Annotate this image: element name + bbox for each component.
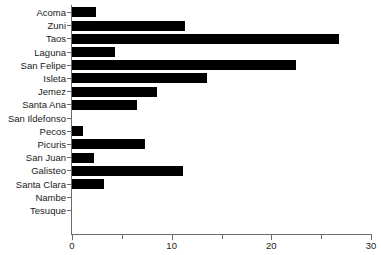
x-axis-tick-label: 10 [166, 240, 177, 251]
y-axis-tick [67, 131, 71, 132]
category-label: San Ildefonso [8, 112, 66, 125]
y-axis-tick [67, 118, 71, 119]
bar-row: San Juan [0, 151, 381, 164]
bar-row: San Felipe [0, 59, 381, 72]
bar-chart: AcomaZuniTaosLagunaSan FelipeIsletaJemez… [0, 0, 381, 255]
bar-row: Santa Ana [0, 98, 381, 111]
category-label: San Juan [26, 151, 66, 164]
bar-row: Nambe [0, 191, 381, 204]
y-axis-tick [67, 144, 71, 145]
bar [72, 139, 145, 149]
category-label: Tesuque [30, 204, 66, 217]
y-axis-tick [67, 25, 71, 26]
category-label: Pecos [40, 125, 66, 138]
category-label: San Felipe [21, 59, 66, 72]
bar-row: Taos [0, 32, 381, 45]
y-axis-tick [67, 52, 71, 53]
category-label: Santa Ana [22, 98, 66, 111]
category-label: Taos [46, 32, 66, 45]
y-axis-tick [67, 157, 71, 158]
y-axis-tick [67, 65, 71, 66]
y-axis-tick [67, 12, 71, 13]
x-axis-tick-label: 0 [69, 240, 74, 251]
y-axis-tick [67, 197, 71, 198]
x-axis-tick-label: 20 [266, 240, 277, 251]
category-label: Jemez [38, 85, 66, 98]
y-axis-tick [67, 91, 71, 92]
bar [72, 166, 183, 176]
bar [72, 47, 115, 57]
category-label: Isleta [43, 72, 66, 85]
x-axis-tick [222, 234, 223, 239]
category-label: Picuris [37, 138, 66, 151]
y-axis-tick [67, 104, 71, 105]
category-label: Santa Clara [16, 178, 66, 191]
y-axis-tick [67, 210, 71, 211]
bar-row: Santa Clara [0, 178, 381, 191]
bar [72, 7, 96, 17]
bar-row: Picuris [0, 138, 381, 151]
bar-row: Pecos [0, 125, 381, 138]
category-label: Zuni [48, 19, 66, 32]
y-axis-tick [67, 170, 71, 171]
category-label: Acoma [36, 6, 66, 19]
y-axis-tick [67, 78, 71, 79]
bar [72, 21, 185, 31]
bar [72, 87, 157, 97]
category-label: Laguna [34, 46, 66, 59]
bar-row: Isleta [0, 72, 381, 85]
bar [72, 73, 207, 83]
bar-row: Acoma [0, 6, 381, 19]
bar [72, 60, 296, 70]
bar-row: San Ildefonso [0, 112, 381, 125]
y-axis-tick [67, 38, 71, 39]
bar [72, 126, 83, 136]
category-label: Nambe [35, 191, 66, 204]
x-axis-tick-label: 30 [366, 240, 377, 251]
bar [72, 153, 94, 163]
bar-row: Tesuque [0, 204, 381, 217]
bar [72, 179, 104, 189]
y-axis-tick [67, 184, 71, 185]
bar-row: Galisteo [0, 164, 381, 177]
bar-row: Laguna [0, 46, 381, 59]
bar [72, 100, 137, 110]
bar [72, 34, 339, 44]
bar-row: Zuni [0, 19, 381, 32]
bar-row: Jemez [0, 85, 381, 98]
x-axis-tick [321, 234, 322, 239]
category-label: Galisteo [31, 164, 66, 177]
x-axis-tick [122, 234, 123, 239]
